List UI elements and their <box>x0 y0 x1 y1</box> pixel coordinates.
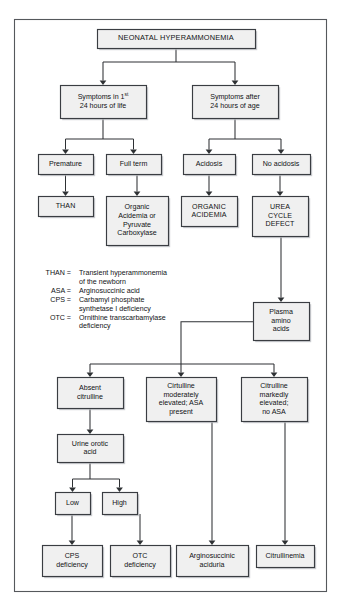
node-organic-acidemia: ORGANICACIDEMIA <box>182 197 240 229</box>
node-label-line: acids <box>273 325 290 333</box>
node-label-line: deficiency <box>56 561 88 569</box>
node-label-line: Premature <box>49 160 82 168</box>
node-plasma-amino-acids: Plasmaaminoacids <box>254 303 312 343</box>
node-label-line: Acidosis <box>196 160 223 168</box>
node-cps-deficiency: CPSdeficiency <box>43 546 105 579</box>
node-label-line: Full term <box>120 160 148 168</box>
node-label-line: Symptoms after <box>210 93 260 101</box>
node-label-line: UREA <box>270 203 290 211</box>
node-than: THAN <box>39 197 96 219</box>
node-label-line: Absent <box>79 384 101 392</box>
node-label-line: aciduria <box>200 561 225 569</box>
node-label-line: Pyruvate <box>123 221 151 229</box>
node-no-acidosis: No acidosis <box>253 155 313 177</box>
node-high: High <box>103 493 140 517</box>
flowchart-figure: NEONATAL HYPERAMMONEMIASymptoms in 1st 2… <box>0 0 343 612</box>
legend-definition: of the newborn <box>79 278 126 286</box>
node-label-line: Citrulline <box>260 382 288 390</box>
legend-definition: synthetase I deficiency <box>79 305 151 313</box>
node-label-line: Citrullinemia <box>265 552 304 560</box>
node-label-line: CYCLE <box>268 212 292 220</box>
legend-abbreviation: CPS = <box>50 296 71 304</box>
node-label-line: Carboxylase <box>117 229 156 237</box>
node-label-line: NEONATAL HYPERAMMONEMIA <box>118 33 234 42</box>
legend-definition: Arginosuccinic acid <box>79 287 140 295</box>
node-citrulline-marked: Citrullinemarkedlyelevated;no ASA <box>242 378 310 424</box>
node-label-line: Plasma <box>269 308 293 316</box>
node-label-line: High <box>112 499 127 507</box>
node-label-line: Low <box>66 499 80 507</box>
node-label-line: Symptoms in 1st <box>78 92 129 101</box>
node-label-line: 24 hours of age <box>210 102 259 110</box>
node-label-line: 24 hours of life <box>80 102 127 110</box>
node-label-line: No acidosis <box>263 160 300 168</box>
legend-definition: Ornithine transcarbamylase <box>79 314 166 322</box>
node-label-line: ACIDEMIA <box>191 211 226 219</box>
legend-definition: Transient hyperammonemia <box>79 269 167 277</box>
node-label-line: citrulline <box>77 393 103 401</box>
node-label-line: moderately <box>163 391 199 399</box>
legend-definition: deficiency <box>79 322 111 330</box>
node-label-line: Cirtulline <box>167 382 195 390</box>
node-label-line: present <box>169 408 193 416</box>
node-label-line: elevated; <box>260 399 289 407</box>
node-sym-late: Symptoms after24 hours of age <box>193 86 281 121</box>
node-label-line: markedly <box>260 391 289 399</box>
legend-definition: Carbamyl phosphate <box>79 296 145 304</box>
node-label-line: elevated; ASA <box>159 399 204 407</box>
node-label-line: acid <box>83 448 96 456</box>
node-premature: Premature <box>39 155 96 177</box>
node-sym-early: Symptoms in 1st 24 hours of life <box>61 86 149 121</box>
node-low: Low <box>56 493 93 517</box>
legend-abbreviation: THAN = <box>46 269 71 277</box>
node-label-line: amino <box>271 317 290 325</box>
node-label-line: CPS <box>65 552 80 560</box>
node-urine-orotic-acid: Urine oroticacid <box>58 435 126 465</box>
node-organic-or-pyruvate: OrganicAcidemia orPyruvateCarboxylase <box>107 197 171 248</box>
node-citrulline-moderate: Cirtullinemoderatelyelevated; ASApresent <box>147 378 219 424</box>
node-label-line: Arginosuccinic <box>189 552 235 560</box>
node-label-line: DEFECT <box>266 220 296 228</box>
node-label-line: no ASA <box>262 408 286 416</box>
node-argininosuccinic-aciduria: Arginosuccinicaciduria <box>177 546 251 579</box>
node-label-line: deficiency <box>124 561 156 569</box>
node-acidosis: Acidosis <box>184 155 238 177</box>
node-label-line: Urine orotic <box>72 440 109 448</box>
node-label-line: ORGANIC <box>192 203 226 211</box>
legend-abbreviation: ASA = <box>51 287 71 295</box>
node-citrullinemia: Citrullinemia <box>257 546 317 570</box>
node-otc-deficiency: OTCdeficiency <box>111 546 173 579</box>
legend-abbreviation: OTC = <box>50 314 71 322</box>
node-root: NEONATAL HYPERAMMONEMIA <box>98 30 258 51</box>
node-label-line: Acidemia or <box>118 212 156 220</box>
node-label-line: OTC <box>133 552 148 560</box>
node-full-term: Full term <box>107 155 164 177</box>
node-label-line: THAN <box>56 202 76 210</box>
node-label-line: Organic <box>125 203 150 211</box>
node-absent-citrulline: Absentcitrulline <box>58 378 126 411</box>
flowchart-canvas: NEONATAL HYPERAMMONEMIASymptoms in 1st 2… <box>0 0 343 612</box>
node-urea-cycle-defect: UREACYCLEDEFECT <box>253 197 311 239</box>
